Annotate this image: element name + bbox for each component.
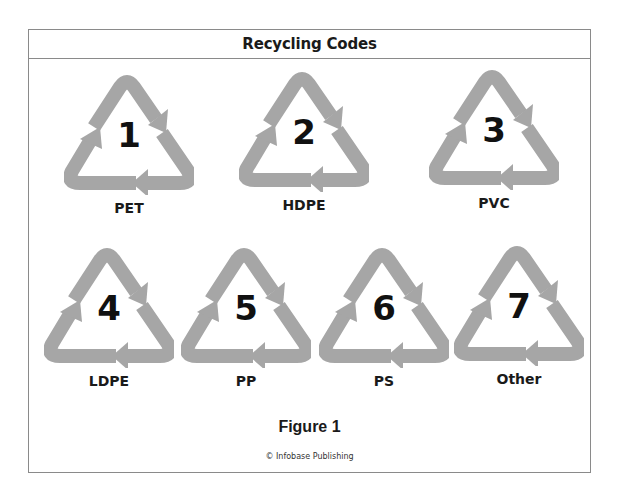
recycling-code-2: 2 HDPE: [239, 72, 369, 222]
code-label: Other: [454, 371, 584, 387]
code-label: LDPE: [44, 373, 174, 389]
figure-caption: Figure 1: [29, 418, 590, 436]
code-number: 4: [44, 288, 174, 328]
recycling-code-7: 7 Other: [454, 246, 584, 396]
code-number: 1: [64, 115, 194, 155]
figure-title: Recycling Codes: [242, 35, 376, 53]
recycling-code-5: 5 PP: [181, 248, 311, 398]
figure-header: Recycling Codes: [29, 30, 590, 59]
code-number: 6: [319, 288, 449, 328]
recycling-code-1: 1 PET: [64, 75, 194, 225]
copyright-credit: © Infobase Publishing: [29, 452, 590, 461]
code-label: PVC: [429, 195, 559, 211]
recycling-code-6: 6 PS: [319, 248, 449, 398]
code-label: PS: [319, 373, 449, 389]
code-label: PET: [64, 200, 194, 216]
code-label: HDPE: [239, 197, 369, 213]
recycling-code-3: 3 PVC: [429, 70, 559, 220]
code-number: 2: [239, 112, 369, 152]
recycling-code-4: 4 LDPE: [44, 248, 174, 398]
code-label: PP: [181, 373, 311, 389]
code-number: 3: [429, 110, 559, 150]
figure-frame: Recycling Codes 1 PET 2 HDPE 3 PVC 4 LDP…: [28, 29, 591, 473]
code-number: 5: [181, 288, 311, 328]
code-number: 7: [454, 286, 584, 326]
